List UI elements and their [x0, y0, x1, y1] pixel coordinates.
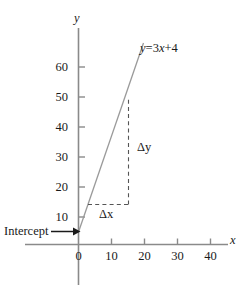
x-tick-label-0: 0: [68, 250, 89, 263]
plot-line: [79, 43, 144, 232]
x-axis-label: x: [230, 234, 236, 247]
equation-label: y=3x+4: [140, 42, 178, 55]
y-tick-label-10: 10: [46, 211, 68, 224]
equation-plus: +: [164, 41, 171, 55]
x-tick-label-40: 40: [200, 250, 221, 263]
y-tick-label-60: 60: [46, 61, 68, 74]
y-tick-label-20: 20: [46, 181, 68, 194]
y-tick-label-40: 40: [46, 121, 68, 134]
graph-figure: 10 20 30 40 50 60 0 10 20 30 40 y x y=3x…: [0, 0, 242, 293]
intercept-arrow: [51, 228, 81, 236]
delta-y-label: Δy: [137, 141, 151, 154]
x-tick-label-10: 10: [101, 250, 122, 263]
y-axis-label: y: [74, 12, 80, 25]
x-tick-label-30: 30: [167, 250, 188, 263]
delta-x-label: Δx: [99, 208, 113, 221]
x-tick-label-20: 20: [134, 250, 155, 263]
y-tick-label-30: 30: [46, 151, 68, 164]
y-tick-label-50: 50: [46, 91, 68, 104]
y-axis-ticks: [79, 67, 86, 217]
equation-constant: 4: [172, 41, 178, 55]
intercept-label: Intercept: [4, 225, 48, 238]
equation-equals: =: [146, 41, 153, 55]
x-axis-ticks: [112, 239, 211, 245]
